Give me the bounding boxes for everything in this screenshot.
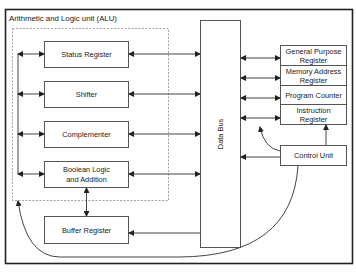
- status-register-block: Status Register: [45, 42, 129, 68]
- data-bus-block: Data Bus: [201, 21, 241, 248]
- program-counter-label: Program Counter: [285, 91, 342, 100]
- data-bus-label: Data Bus: [216, 118, 225, 149]
- complementer-label: Complementer: [62, 130, 111, 139]
- shifter-label: Shifter: [76, 90, 98, 99]
- status-register-label: Status Register: [61, 50, 112, 59]
- alu-title: Arithmetic and Logic unit (ALU): [9, 14, 117, 23]
- buffer-register-block: Buffer Register: [45, 217, 129, 244]
- boolean-logic-block: Boolean Logic and Addition: [45, 162, 129, 188]
- gpr-block: General Purpose Register: [281, 46, 347, 66]
- program-counter-block: Program Counter: [281, 86, 347, 105]
- shifter-block: Shifter: [45, 82, 129, 108]
- boolean-label-line2: and Addition: [66, 175, 107, 184]
- buffer-register-label: Buffer Register: [62, 226, 112, 235]
- complementer-block: Complementer: [45, 122, 129, 148]
- control-unit-label: Control Unit: [294, 151, 333, 160]
- gpr-label-line2: Register: [300, 56, 328, 65]
- arrow-cu-curve-up: [260, 127, 280, 151]
- instruction-register-block: Instruction Register: [281, 105, 347, 125]
- mar-block: Memory Address Register: [281, 66, 347, 86]
- mar-label-line2: Register: [300, 76, 328, 85]
- control-unit-block: Control Unit: [281, 146, 347, 166]
- alu-diagram: Arithmetic and Logic unit (ALU) Status R…: [0, 0, 356, 272]
- boolean-label-line1: Boolean Logic: [63, 165, 110, 174]
- ir-label-line2: Register: [300, 115, 328, 124]
